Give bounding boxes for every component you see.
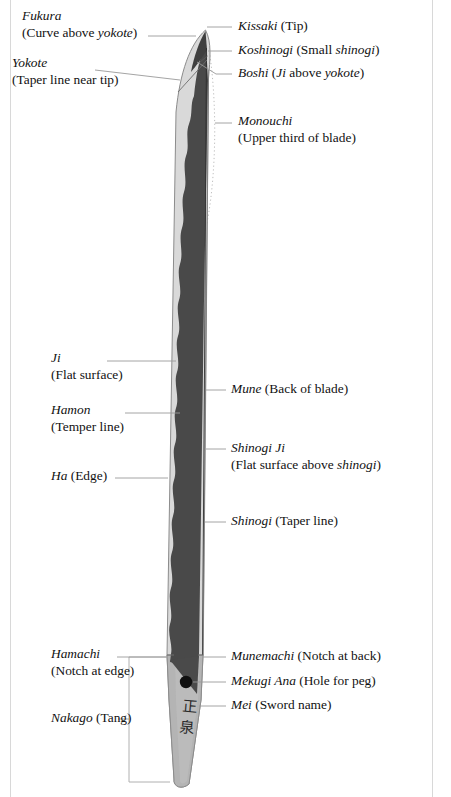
label-hamachi-detail: (Notch at edge) <box>51 663 134 680</box>
label-yokote-term: Yokote <box>12 55 47 70</box>
label-kissaki: Kissaki (Tip) <box>238 18 308 35</box>
nakago-bracket <box>129 657 170 782</box>
label-hamon: Hamon (Temper line) <box>51 402 124 435</box>
mei-kanji-top: 正 <box>181 697 198 716</box>
label-ji-detail: (Flat surface) <box>51 367 123 384</box>
label-shinogi-ji-term: Shinogi Ji <box>231 440 285 455</box>
label-nakago: Nakago (Tang) <box>51 710 132 727</box>
label-nakago-detail: (Tang) <box>93 710 132 725</box>
label-koshinogi-detail: (Small shinogi) <box>293 42 379 57</box>
label-mune-term: Mune <box>231 381 262 396</box>
label-mekugi-ana: Mekugi Ana (Hole for peg) <box>231 673 376 690</box>
label-kissaki-term: Kissaki <box>238 18 277 33</box>
label-shinogi-ji-detail: (Flat surface above shinogi) <box>231 457 381 474</box>
label-nakago-term: Nakago <box>51 710 93 725</box>
label-koshinogi-term: Koshinogi <box>238 42 293 57</box>
label-ha: Ha (Edge) <box>51 468 107 485</box>
label-mekugi-ana-detail: (Hole for peg) <box>296 673 376 688</box>
label-ji-term: Ji <box>51 350 61 365</box>
label-yokote: Yokote (Taper line near tip) <box>12 55 119 88</box>
diagram-page: 正 泉 Fukura (Curve above yokote) Yokote (… <box>0 0 451 797</box>
label-monouchi: Monouchi (Upper third of blade) <box>238 113 356 146</box>
label-mekugi-ana-term: Mekugi Ana <box>231 673 296 688</box>
label-mune: Mune (Back of blade) <box>231 381 348 398</box>
label-monouchi-term: Monouchi <box>238 113 292 128</box>
label-shinogi-detail: (Taper line) <box>272 513 338 528</box>
label-kissaki-detail: (Tip) <box>277 18 307 33</box>
label-boshi: Boshi (Ji above yokote) <box>238 65 364 82</box>
label-monouchi-detail: (Upper third of blade) <box>238 130 356 147</box>
label-fukura-term: Fukura <box>22 8 61 23</box>
label-shinogi-term: Shinogi <box>231 513 272 528</box>
label-fukura-detail: (Curve above yokote) <box>22 25 137 42</box>
label-shinogi: Shinogi (Taper line) <box>231 513 338 530</box>
label-munemachi-detail: (Notch at back) <box>294 648 381 663</box>
label-munemachi-term: Munemachi <box>231 648 294 663</box>
label-hamachi: Hamachi (Notch at edge) <box>51 646 134 679</box>
label-hamon-detail: (Temper line) <box>51 419 124 436</box>
label-mune-detail: (Back of blade) <box>262 381 349 396</box>
label-boshi-detail: (Ji above yokote) <box>269 65 365 80</box>
mei-kanji-bottom: 泉 <box>178 718 195 737</box>
label-mei-detail: (Sword name) <box>252 697 332 712</box>
label-hamon-term: Hamon <box>51 402 90 417</box>
label-koshinogi: Koshinogi (Small shinogi) <box>238 42 379 59</box>
label-mei-term: Mei <box>231 697 252 712</box>
label-ha-term: Ha <box>51 468 67 483</box>
label-fukura: Fukura (Curve above yokote) <box>22 8 137 41</box>
label-hamachi-term: Hamachi <box>51 646 100 661</box>
label-mei: Mei (Sword name) <box>231 697 331 714</box>
label-shinogi-ji: Shinogi Ji (Flat surface above shinogi) <box>231 440 381 473</box>
label-ha-detail: (Edge) <box>67 468 107 483</box>
label-boshi-term: Boshi <box>238 65 269 80</box>
label-yokote-detail: (Taper line near tip) <box>12 72 119 89</box>
mekugi-ana-hole <box>180 676 192 688</box>
label-munemachi: Munemachi (Notch at back) <box>231 648 381 665</box>
label-ji: Ji (Flat surface) <box>51 350 123 383</box>
